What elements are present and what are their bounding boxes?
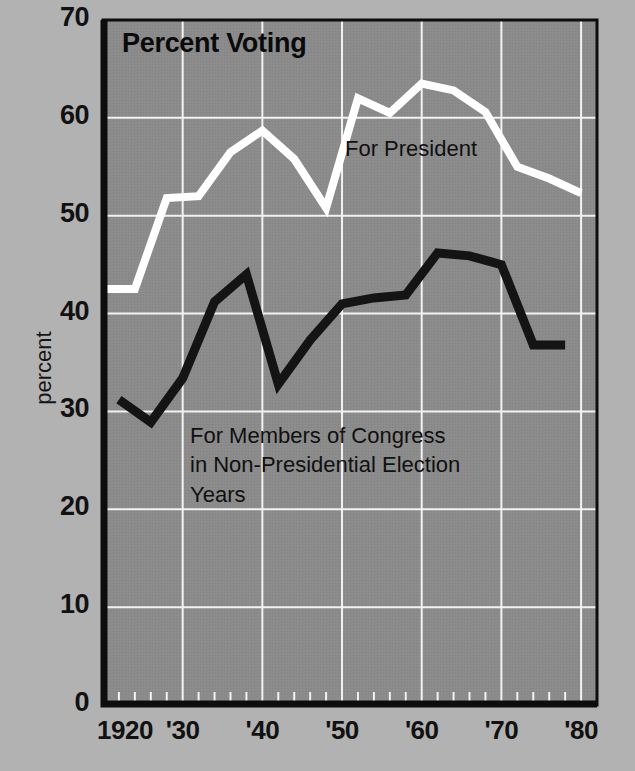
y-axis-tick-label: 50 — [19, 198, 89, 229]
y-axis-tick-label: 20 — [19, 491, 89, 522]
chart-title: Percent Voting — [122, 28, 306, 59]
y-axis-tick-label: 70 — [19, 2, 89, 33]
y-axis-tick-label: 30 — [19, 393, 89, 424]
y-axis-tick-label: 60 — [19, 100, 89, 131]
series-label-president: For President — [345, 136, 477, 162]
chart-canvas — [0, 0, 635, 771]
y-axis-tick-label: 10 — [19, 589, 89, 620]
series-label-congress: For Members of Congress in Non-President… — [190, 421, 460, 509]
x-axis-tick-label: '80 — [521, 715, 635, 746]
chart-figure: Percent Voting percent For President For… — [0, 0, 635, 771]
y-axis-tick-label: 0 — [19, 687, 89, 718]
y-axis-tick-label: 40 — [19, 296, 89, 327]
